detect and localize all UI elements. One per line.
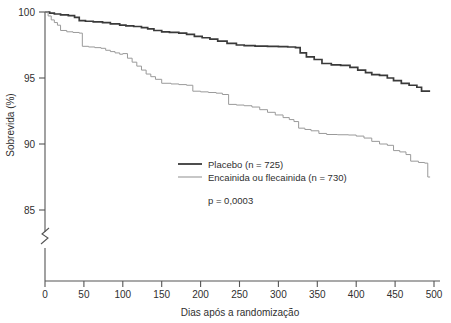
kaplan-meier-figure: 100 95 90 85 0 50 100 150 200 250 300 35… bbox=[0, 0, 451, 323]
x-tick-label-300: 300 bbox=[270, 289, 287, 300]
x-tick-label-500: 500 bbox=[426, 289, 443, 300]
x-tick-label-50: 50 bbox=[78, 289, 90, 300]
survival-chart: 100 95 90 85 0 50 100 150 200 250 300 35… bbox=[0, 0, 451, 323]
y-tick-label-90: 90 bbox=[24, 139, 36, 150]
y-tick-label-100: 100 bbox=[18, 7, 35, 18]
x-axis-title: Dias após a randomização bbox=[181, 307, 300, 318]
y-tick-label-85: 85 bbox=[24, 205, 36, 216]
x-tick-label-100: 100 bbox=[114, 289, 131, 300]
x-tick-label-0: 0 bbox=[42, 289, 48, 300]
x-tick-label-400: 400 bbox=[348, 289, 365, 300]
y-tick-label-95: 95 bbox=[24, 73, 36, 84]
y-axis-title: Sobrevida (%) bbox=[5, 93, 16, 156]
x-tick-label-350: 350 bbox=[309, 289, 326, 300]
legend-item-drug-label: Encainida ou flecainida (n = 730) bbox=[208, 172, 347, 183]
legend-item-placebo-label: Placebo (n = 725) bbox=[208, 159, 283, 170]
x-tick-label-200: 200 bbox=[192, 289, 209, 300]
p-value-annotation: p = 0,0003 bbox=[208, 195, 253, 206]
x-tick-label-150: 150 bbox=[153, 289, 170, 300]
x-tick-label-250: 250 bbox=[231, 289, 248, 300]
x-tick-label-450: 450 bbox=[387, 289, 404, 300]
